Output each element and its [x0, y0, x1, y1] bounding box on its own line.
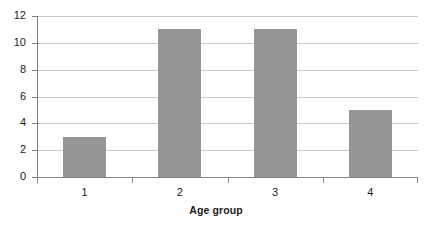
x-tick-mark — [417, 178, 418, 183]
y-tick-label: 12 — [0, 10, 26, 21]
y-tick-mark — [32, 150, 37, 151]
x-tick-mark — [323, 178, 324, 183]
y-tick-label: 0 — [0, 171, 26, 182]
y-axis-line — [37, 16, 38, 178]
y-tick-label: 2 — [0, 144, 26, 155]
x-axis-title: Age group — [0, 203, 432, 217]
gridline — [37, 16, 418, 17]
y-tick-label: 6 — [0, 91, 26, 102]
y-tick-label: 10 — [0, 37, 26, 48]
y-tick-mark — [32, 43, 37, 44]
bar — [63, 137, 106, 177]
y-tick-mark — [32, 16, 37, 17]
bar — [254, 29, 297, 177]
x-tick-label: 2 — [150, 186, 210, 199]
x-tick-label: 1 — [55, 186, 115, 199]
gridline — [37, 70, 418, 71]
bar — [158, 29, 201, 177]
y-tick-mark — [32, 70, 37, 71]
plot-area — [37, 16, 418, 177]
x-tick-mark — [132, 178, 133, 183]
x-tick-mark — [228, 178, 229, 183]
bar — [349, 110, 392, 177]
y-tick-label: 4 — [0, 117, 26, 128]
x-tick-label: 3 — [245, 186, 305, 199]
y-tick-mark — [32, 97, 37, 98]
y-tick-mark — [32, 123, 37, 124]
gridline — [37, 97, 418, 98]
y-tick-label: 8 — [0, 64, 26, 75]
gridline — [37, 43, 418, 44]
x-tick-mark — [37, 178, 38, 183]
x-tick-label: 4 — [340, 186, 400, 199]
bar-chart: 024681012 1234 Age group — [0, 0, 432, 229]
